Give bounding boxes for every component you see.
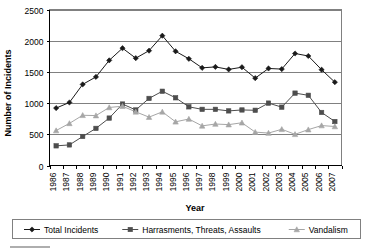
x-tick-label: 2006 [314, 172, 324, 191]
x-tick-label: 1994 [154, 172, 164, 191]
x-tick-label: 2007 [327, 172, 337, 191]
data-point [253, 108, 257, 112]
x-tick-label: 1995 [168, 172, 178, 191]
data-point [200, 107, 204, 111]
data-point [94, 126, 98, 130]
legend-label: Total Incidents [44, 225, 98, 235]
legend-label: Vandalism [309, 225, 348, 235]
data-point [266, 101, 270, 105]
chart-container: 05001000150020002500 1986198719881989199… [0, 0, 373, 251]
data-point [319, 110, 323, 114]
x-tick-label: 1992 [128, 172, 138, 191]
data-point [107, 116, 111, 120]
legend-label: Harrasments, Threats, Assaults [142, 225, 260, 235]
x-tick-label: 1993 [141, 172, 151, 191]
x-tick-label: 1999 [221, 172, 231, 191]
incidents-line-chart: 05001000150020002500 1986198719881989199… [0, 0, 373, 251]
chart-background [0, 0, 373, 251]
y-tick-label: 2000 [25, 37, 44, 47]
data-point [67, 143, 71, 147]
data-point [80, 134, 84, 138]
legend-item[interactable]: Harrasments, Threats, Assaults [122, 225, 260, 235]
x-tick-label: 1989 [88, 172, 98, 191]
x-axis-title: Year [185, 203, 205, 213]
x-tick-label: 1998 [207, 172, 217, 191]
x-tick-label: 1988 [75, 172, 85, 191]
x-tick-label: 2000 [234, 172, 244, 191]
y-tick-label: 500 [29, 130, 43, 140]
data-point [160, 89, 164, 93]
y-tick-label: 1500 [25, 68, 44, 78]
data-point [187, 105, 191, 109]
data-point [213, 107, 217, 111]
data-point [240, 108, 244, 112]
data-point [293, 91, 297, 95]
data-point [280, 105, 284, 109]
x-tick-label: 1997 [194, 172, 204, 191]
x-tick-label: 1986 [48, 172, 58, 191]
y-tick-label: 2500 [25, 6, 44, 16]
data-point [147, 96, 151, 100]
x-tick-label: 2002 [261, 172, 271, 191]
x-tick-label: 1990 [101, 172, 111, 191]
x-tick-label: 1991 [115, 172, 125, 191]
y-tick-label: 0 [39, 162, 44, 172]
x-tick-label: 2003 [274, 172, 284, 191]
x-tick-label: 2005 [300, 172, 310, 191]
data-point [306, 93, 310, 97]
x-tick-label: 2001 [247, 172, 257, 191]
data-point [54, 144, 58, 148]
data-point [226, 109, 230, 113]
square-marker [128, 227, 132, 231]
page-artifact [10, 246, 50, 248]
x-tick-label: 1996 [181, 172, 191, 191]
data-point [173, 96, 177, 100]
x-tick-label: 1987 [61, 172, 71, 191]
y-axis-title: Number of Incidents [3, 49, 13, 136]
data-point [333, 119, 337, 123]
y-tick-label: 1000 [25, 99, 44, 109]
x-tick-label: 2004 [287, 172, 297, 191]
